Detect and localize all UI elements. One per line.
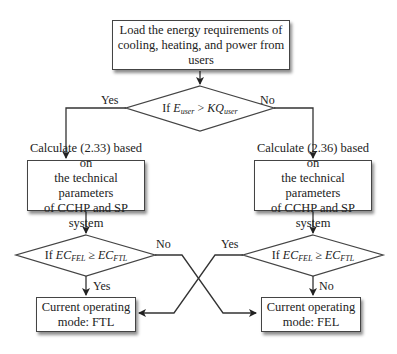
right-yes-label: Yes	[221, 237, 238, 252]
decision-rhs-sub: user	[224, 107, 238, 116]
start-box: Load the energy requirements of cooling,…	[112, 20, 290, 70]
decision-op: ≥	[312, 248, 325, 262]
decision-rhs-sub: FTL	[113, 254, 127, 263]
calc-left-box: Calculate (2.33) based on the technical …	[27, 160, 145, 211]
left-no-label: No	[156, 237, 171, 252]
mode-fel-line-2: mode: FEL	[267, 315, 356, 330]
decision-op: ≥	[85, 248, 98, 262]
start-line-1: Load the energy requirements of	[113, 23, 289, 38]
calc-right-line-1: Calculate (2.36) based on	[255, 141, 371, 171]
decision-lhs-sub: FEL	[298, 254, 312, 263]
calc-left-line-1: Calculate (2.33) based on	[28, 141, 144, 171]
left-yes-label: Yes	[93, 279, 110, 294]
calc-right-box: Calculate (2.36) based on the technical …	[254, 160, 372, 211]
main-yes-label: Yes	[101, 93, 118, 108]
mode-fel-box: Current operating mode: FEL	[261, 297, 361, 332]
calc-right-line-2: the technical parameters	[255, 171, 371, 201]
calc-left-line-3: of CCHP and SP system	[28, 201, 144, 231]
decision-main-label: If Euser > KQuser	[162, 101, 237, 116]
decision-lhs: EC	[56, 248, 71, 262]
decision-prefix: If	[162, 101, 173, 115]
start-line-2: cooling, heating, and power from users	[113, 38, 289, 68]
decision-rhs: EC	[98, 248, 113, 262]
decision-prefix: If	[45, 248, 56, 262]
decision-lhs: EC	[283, 248, 298, 262]
right-no-label: No	[319, 279, 334, 294]
main-no-label: No	[260, 93, 275, 108]
decision-lhs-sub: FEL	[71, 254, 85, 263]
decision-right-label: If ECFEL ≥ ECFTL	[272, 248, 354, 263]
decision-op: >	[194, 101, 207, 115]
decision-rhs: EC	[325, 248, 340, 262]
decision-rhs: KQ	[207, 101, 224, 115]
decision-rhs-sub: FTL	[340, 254, 354, 263]
decision-lhs-sub: user	[181, 107, 195, 116]
calc-right-line-3: of CCHP and SP system	[255, 201, 371, 231]
mode-fel-line-1: Current operating	[267, 300, 356, 315]
calc-left-line-2: the technical parameters	[28, 171, 144, 201]
decision-prefix: If	[272, 248, 283, 262]
decision-left-label: If ECFEL ≥ ECFTL	[45, 248, 127, 263]
mode-ftl-line-1: Current operating	[42, 300, 131, 315]
mode-ftl-line-2: mode: FTL	[42, 315, 131, 330]
mode-ftl-box: Current operating mode: FTL	[36, 297, 136, 332]
